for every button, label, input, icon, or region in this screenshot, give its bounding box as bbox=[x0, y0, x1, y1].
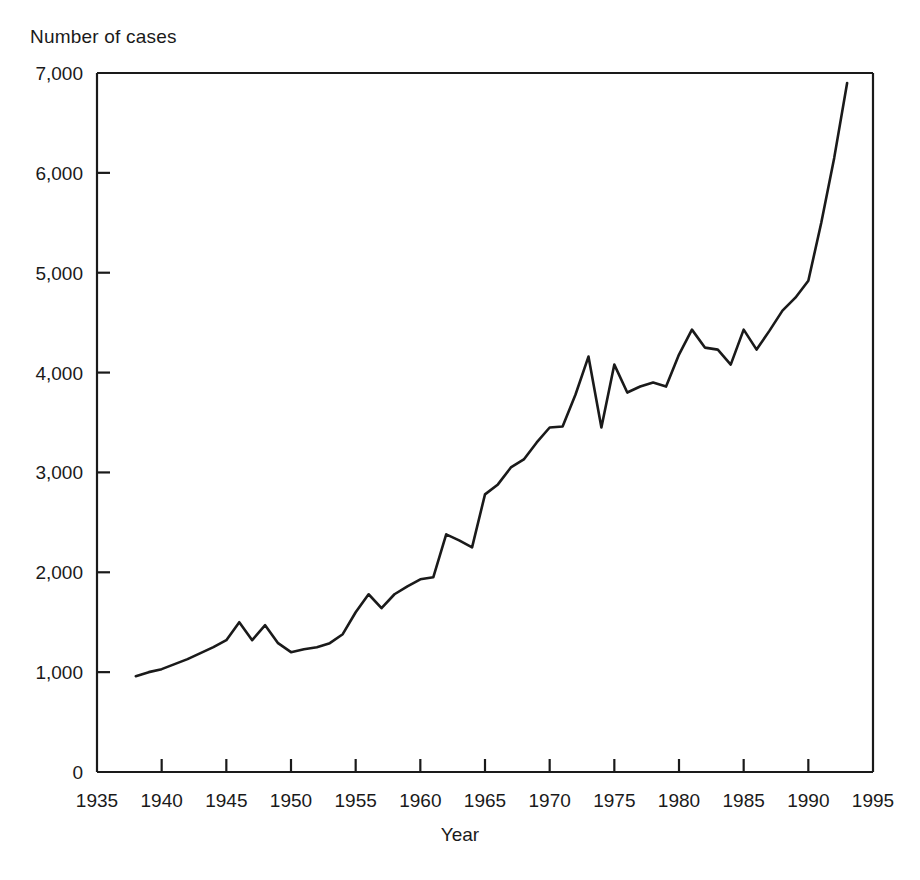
x-tick-label: 1935 bbox=[76, 790, 118, 811]
x-axis-ticks: 1935194019451950195519601965197019751980… bbox=[76, 759, 894, 811]
x-tick-label: 1990 bbox=[787, 790, 829, 811]
y-tick-label: 4,000 bbox=[35, 363, 83, 384]
axis-group bbox=[97, 73, 873, 772]
y-tick-label: 2,000 bbox=[35, 562, 83, 583]
y-tick-label: 0 bbox=[72, 762, 83, 783]
x-tick-label: 1980 bbox=[658, 790, 700, 811]
x-tick-label: 1950 bbox=[270, 790, 312, 811]
y-tick-label: 7,000 bbox=[35, 63, 83, 84]
chart-figure: Number of cases 01,0002,0003,0004,0005,0… bbox=[0, 0, 920, 880]
x-axis-title: Year bbox=[0, 824, 920, 846]
x-tick-label: 1985 bbox=[723, 790, 765, 811]
x-tick-label: 1945 bbox=[205, 790, 247, 811]
data-series-line bbox=[136, 83, 847, 676]
y-tick-label: 3,000 bbox=[35, 462, 83, 483]
x-tick-label: 1965 bbox=[464, 790, 506, 811]
x-tick-label: 1975 bbox=[593, 790, 635, 811]
y-tick-label: 6,000 bbox=[35, 163, 83, 184]
y-tick-label: 5,000 bbox=[35, 263, 83, 284]
x-tick-label: 1960 bbox=[399, 790, 441, 811]
x-tick-label: 1955 bbox=[335, 790, 377, 811]
y-tick-label: 1,000 bbox=[35, 662, 83, 683]
line-chart-plot: 01,0002,0003,0004,0005,0006,0007,000 193… bbox=[0, 0, 920, 880]
x-tick-label: 1995 bbox=[852, 790, 894, 811]
x-tick-label: 1940 bbox=[141, 790, 183, 811]
x-tick-label: 1970 bbox=[529, 790, 571, 811]
y-axis-ticks: 01,0002,0003,0004,0005,0006,0007,000 bbox=[35, 63, 110, 783]
